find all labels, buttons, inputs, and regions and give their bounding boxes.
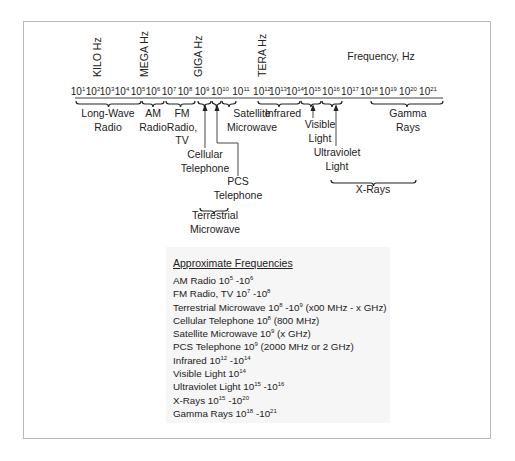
legend-title: Approximate Frequencies <box>173 257 293 269</box>
legend-row: Gamma Rays 1018 -1021 <box>173 407 390 420</box>
legend-row: Cellular Telephone 108 (800 MHz) <box>173 314 390 327</box>
tick-label: 1013 <box>269 86 287 97</box>
group-label: TerrestrialMicrowave <box>190 209 240 235</box>
unit-labels: KILO HzMEGA HzGIGA HzTERA Hz <box>91 31 268 77</box>
tick-label: 105 <box>131 86 146 97</box>
legend-row: X-Rays 1015 -1020 <box>173 394 390 407</box>
tick-label: 1011 <box>232 86 250 97</box>
group-label: X-Rays <box>356 183 390 195</box>
legend-rows: AM Radio 105 -106FM Radio, TV 107 -108Te… <box>173 274 390 420</box>
band-bracket <box>322 101 342 107</box>
tick-label: 1017 <box>341 86 359 97</box>
tick-label: 103 <box>100 86 115 97</box>
marker-label: PCSTelephone <box>214 175 263 201</box>
axis-title: Frequency, Hz <box>347 50 415 62</box>
tick-label: 1015 <box>303 86 321 97</box>
tick-label: 104 <box>115 86 130 97</box>
marker-label: UltravioletLight <box>314 146 361 172</box>
tick-label: 106 <box>146 86 161 97</box>
tick-label: 1020 <box>399 86 417 97</box>
legend-box: Approximate Frequencies AM Radio 105 -10… <box>166 247 390 423</box>
band-label: FMRadio,TV <box>167 107 197 146</box>
tick-label: 109 <box>195 86 210 97</box>
tick-label: 1021 <box>419 86 437 97</box>
marker-label: VisibleLight <box>305 118 336 144</box>
band-label: Infrared <box>265 107 301 119</box>
unit-label: TERA Hz <box>256 34 268 77</box>
legend-row: Visible Light 1014 <box>173 367 390 380</box>
unit-label: GIGA Hz <box>192 36 204 77</box>
unit-label: MEGA Hz <box>138 31 150 77</box>
band-label: GammaRays <box>389 107 427 133</box>
band-label: AMRadio <box>139 107 167 133</box>
legend-row: Ultraviolet Light 1015 -1016 <box>173 380 390 393</box>
legend-row: Infrared 1012 -1014 <box>173 354 390 367</box>
band-brackets: Long-WaveRadioAMRadioFMRadio,TVSatellite… <box>76 101 443 146</box>
tick-label: 1014 <box>286 86 304 97</box>
band-bracket <box>301 101 321 107</box>
marker-label: CellularTelephone <box>181 148 230 174</box>
tick-label: 108 <box>178 86 193 97</box>
legend-row: Satellite Microwave 109 (x GHz) <box>173 327 390 340</box>
band-label: Long-WaveRadio <box>81 107 134 133</box>
legend-row: PCS Telephone 109 (2000 MHz or 2 GHz) <box>173 340 390 353</box>
tick-label: 1019 <box>379 86 397 97</box>
tick-label: 101 <box>71 86 86 97</box>
legend-row: AM Radio 105 -106 <box>173 274 390 287</box>
legend-row: Terrestrial Microwave 108 -109 (x00 MHz … <box>173 301 390 314</box>
unit-label: KILO Hz <box>91 37 103 77</box>
tick-labels: 1011021031041051061071081091010101110121… <box>71 86 438 97</box>
tick-label: 1018 <box>360 86 378 97</box>
arrow-up-icon <box>334 104 339 111</box>
tick-label: 107 <box>162 86 177 97</box>
legend-row: FM Radio, TV 107 -108 <box>173 287 390 300</box>
tick-label: 1016 <box>322 86 340 97</box>
tick-label: 102 <box>86 86 101 97</box>
tick-label: 1010 <box>211 86 229 97</box>
